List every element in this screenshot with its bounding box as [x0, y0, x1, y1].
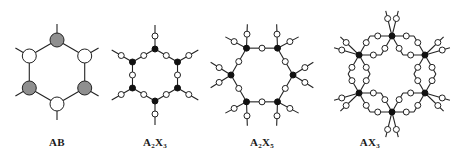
bridging-x-node — [282, 85, 288, 91]
x-node — [370, 90, 376, 96]
atom-a-node — [290, 72, 296, 78]
bridging-x-node — [259, 45, 265, 51]
terminal-x-node — [274, 113, 280, 119]
terminal-x-node — [244, 31, 250, 37]
x-node — [435, 103, 441, 109]
atom-a-node — [356, 52, 362, 58]
x-node — [393, 126, 399, 132]
bridging-x-node — [141, 92, 147, 98]
bridging-x-node — [163, 53, 169, 59]
x-node — [375, 109, 381, 115]
x-node — [363, 78, 369, 84]
terminal-x-node — [287, 105, 293, 111]
x-node — [363, 102, 369, 108]
panel-ax3-structure — [334, 11, 450, 137]
terminal-x-node — [287, 39, 293, 45]
atom-a-node — [152, 46, 158, 52]
x-node — [439, 95, 445, 101]
atom-x-node — [22, 49, 36, 63]
x-node — [415, 64, 421, 70]
bridging-x-node — [141, 53, 147, 59]
x-node — [385, 16, 391, 22]
x-node — [415, 78, 421, 84]
x-node — [439, 47, 445, 53]
bond-line — [392, 112, 398, 137]
panel-ab-structure — [15, 24, 98, 120]
x-node — [393, 16, 399, 22]
x-node — [435, 39, 441, 45]
bridging-x-node — [236, 59, 242, 65]
bridging-x-node — [282, 59, 288, 65]
x-node — [403, 33, 409, 39]
x-node — [343, 103, 349, 109]
atom-a-node — [152, 98, 158, 104]
terminal-x-node — [244, 113, 250, 119]
x-node — [363, 40, 369, 46]
x-node — [429, 78, 435, 84]
bridging-x-node — [175, 72, 181, 78]
x-node — [363, 64, 369, 70]
terminal-x-node — [216, 79, 222, 85]
atom-a-node — [129, 59, 135, 65]
x-node — [375, 33, 381, 39]
bridging-x-node — [129, 72, 135, 78]
atom-a-node — [78, 81, 92, 95]
terminal-x-node — [274, 31, 280, 37]
bridging-x-node — [259, 99, 265, 105]
panel-a2x5-structure — [211, 24, 314, 126]
terminal-x-node — [152, 111, 158, 117]
atom-a-node — [422, 90, 428, 96]
terminal-x-node — [231, 39, 237, 45]
atom-a-node — [175, 59, 181, 65]
x-node — [339, 47, 345, 53]
x-node — [343, 39, 349, 45]
x-node — [349, 64, 355, 70]
x-node — [415, 40, 421, 46]
x-node — [408, 52, 414, 58]
atom-x-node — [78, 49, 92, 63]
atom-a-node — [389, 109, 395, 115]
atom-a-node — [129, 85, 135, 91]
bond-line — [386, 11, 392, 36]
terminal-x-node — [118, 92, 124, 98]
terminal-x-node — [231, 105, 237, 111]
panel-label-a2x5: A2X5 — [232, 136, 292, 150]
bridging-x-node — [236, 85, 242, 91]
terminal-x-node — [152, 33, 158, 39]
atom-a-node — [244, 45, 250, 51]
x-node — [385, 126, 391, 132]
atom-a-node — [422, 52, 428, 58]
x-node — [429, 64, 435, 70]
bond-line — [386, 112, 392, 137]
x-node — [382, 97, 388, 103]
x-node — [415, 102, 421, 108]
x-node — [339, 95, 345, 101]
x-node — [349, 78, 355, 84]
terminal-x-node — [186, 53, 192, 59]
bond-line — [392, 11, 398, 36]
terminal-x-node — [302, 79, 308, 85]
atom-a-node — [275, 45, 281, 51]
atom-a-node — [50, 33, 64, 47]
x-node — [382, 45, 388, 51]
panel-label-ab: AB — [27, 136, 87, 148]
x-node — [408, 90, 414, 96]
atom-a-node — [244, 99, 250, 105]
atom-a-node — [22, 81, 36, 95]
atom-a-node — [228, 72, 234, 78]
bridging-x-node — [163, 92, 169, 98]
panel-a2x3-structure — [112, 25, 199, 125]
x-node — [396, 97, 402, 103]
x-node — [370, 52, 376, 58]
terminal-x-node — [302, 65, 308, 71]
x-node — [403, 109, 409, 115]
panel-label-a2x3: A2X3 — [125, 136, 185, 150]
atom-a-node — [356, 90, 362, 96]
terminal-x-node — [216, 65, 222, 71]
terminal-x-node — [118, 53, 124, 59]
panel-label-ax3: AX3 — [340, 136, 400, 150]
atom-a-node — [275, 99, 281, 105]
x-node — [396, 45, 402, 51]
atom-a-node — [389, 33, 395, 39]
atom-x-node — [50, 97, 64, 111]
